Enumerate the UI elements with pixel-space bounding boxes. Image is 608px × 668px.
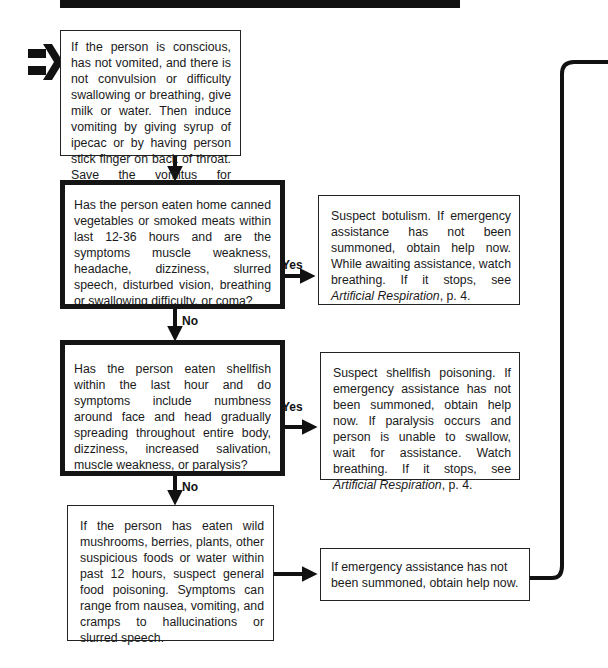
start-instruction-box: If the person is conscious, has not vomi… <box>60 30 241 156</box>
botulism-answer-box: Suspect botulism. If emergency assistanc… <box>318 195 520 305</box>
shellfish-reference-page: , p. 4. <box>442 478 473 492</box>
start-instruction-text: If the person is conscious, has not vomi… <box>71 40 231 198</box>
botulism-question-box: Has the person eaten home canned vegetab… <box>60 180 285 309</box>
shellfish-answer-text: Suspect shellfish poisoning. If emergenc… <box>333 366 511 476</box>
botulism-no-label: No <box>182 314 198 328</box>
botulism-reference: Artificial Respiration <box>331 289 440 303</box>
general-answer-text: If emergency assistance has not been sum… <box>331 560 518 590</box>
shellfish-question-text: Has the person eaten shellfish within th… <box>74 362 271 472</box>
shellfish-answer-box: Suspect shellfish poisoning. If emergenc… <box>320 352 520 480</box>
general-answer-box: If emergency assistance has not been sum… <box>320 548 530 601</box>
general-food-poisoning-box: If the person has eaten wild mushrooms, … <box>67 505 274 641</box>
botulism-answer-text: Suspect botulism. If emergency assistanc… <box>331 209 511 287</box>
botulism-yes-label: Yes <box>282 258 303 272</box>
botulism-question-text: Has the person eaten home canned vegetab… <box>74 198 271 308</box>
botulism-reference-page: , p. 4. <box>440 289 471 303</box>
shellfish-yes-label: Yes <box>282 400 303 414</box>
shellfish-reference: Artificial Respiration <box>333 478 442 492</box>
shellfish-question-box: Has the person eaten shellfish within th… <box>60 340 285 476</box>
shellfish-no-label: No <box>182 480 198 494</box>
general-food-poisoning-text: If the person has eaten wild mushrooms, … <box>80 519 264 645</box>
